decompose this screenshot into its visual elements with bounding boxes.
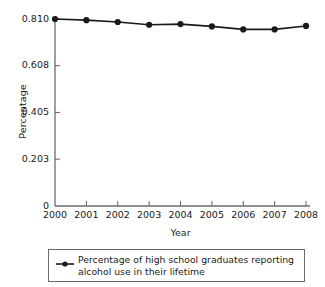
legend-item: Percentage of high school graduates repo… bbox=[56, 254, 300, 277]
data-point-marker bbox=[272, 26, 278, 32]
x-axis-title: Year bbox=[55, 227, 306, 238]
data-point-marker bbox=[115, 19, 121, 25]
legend-item-label: Percentage of high school graduates repo… bbox=[78, 254, 300, 277]
data-point-marker bbox=[177, 21, 183, 27]
data-series bbox=[52, 16, 309, 33]
data-point-marker bbox=[52, 16, 58, 22]
legend: Percentage of high school graduates repo… bbox=[48, 249, 305, 282]
data-point-marker bbox=[303, 23, 309, 29]
legend-line-marker-icon bbox=[56, 255, 74, 267]
data-point-marker bbox=[83, 17, 89, 23]
line-chart: Percentage 00.2030.4050.6080.810 2000200… bbox=[0, 0, 325, 287]
data-point-marker bbox=[146, 22, 152, 28]
plot-area bbox=[0, 0, 325, 287]
axes bbox=[55, 18, 310, 206]
data-point-marker bbox=[240, 26, 246, 32]
data-point-marker bbox=[209, 23, 215, 29]
